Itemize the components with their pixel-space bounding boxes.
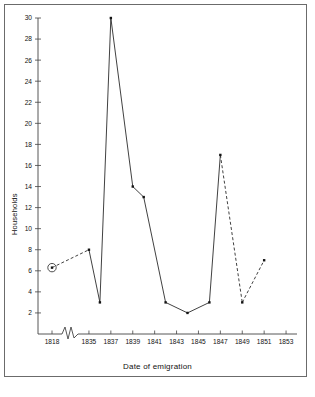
svg-text:1851: 1851 (257, 338, 272, 345)
svg-text:30: 30 (25, 14, 33, 21)
svg-text:1845: 1845 (191, 338, 206, 345)
svg-text:1837: 1837 (104, 338, 119, 345)
svg-text:16: 16 (25, 162, 33, 169)
svg-text:2: 2 (28, 309, 32, 316)
x-axis: 1818183518371839184118431845184718491851… (38, 327, 297, 345)
svg-text:1839: 1839 (125, 338, 140, 345)
svg-text:18: 18 (25, 141, 33, 148)
svg-text:1849: 1849 (235, 338, 250, 345)
svg-text:1847: 1847 (213, 338, 228, 345)
svg-text:1835: 1835 (82, 338, 97, 345)
svg-text:4: 4 (28, 288, 32, 295)
svg-text:6: 6 (28, 267, 32, 274)
svg-text:1841: 1841 (147, 338, 162, 345)
svg-text:24: 24 (25, 78, 33, 85)
data-series (52, 18, 264, 313)
svg-text:12: 12 (25, 204, 33, 211)
y-axis: 24681012141618202224262830 (25, 14, 41, 334)
y-axis-title: Households (10, 193, 19, 235)
svg-text:14: 14 (25, 183, 33, 190)
x-axis-title: Date of emigration (0, 362, 315, 371)
plot-canvas: 24681012141618202224262830 1818183518371… (0, 0, 315, 397)
svg-text:28: 28 (25, 35, 33, 42)
svg-text:8: 8 (28, 246, 32, 253)
svg-text:26: 26 (25, 57, 33, 64)
svg-text:10: 10 (25, 225, 33, 232)
svg-text:1853: 1853 (279, 338, 294, 345)
data-markers (48, 17, 266, 314)
svg-text:22: 22 (25, 99, 33, 106)
svg-text:1843: 1843 (169, 338, 184, 345)
svg-text:20: 20 (25, 120, 33, 127)
chart-figure: 24681012141618202224262830 1818183518371… (0, 0, 315, 397)
svg-text:1818: 1818 (45, 338, 60, 345)
